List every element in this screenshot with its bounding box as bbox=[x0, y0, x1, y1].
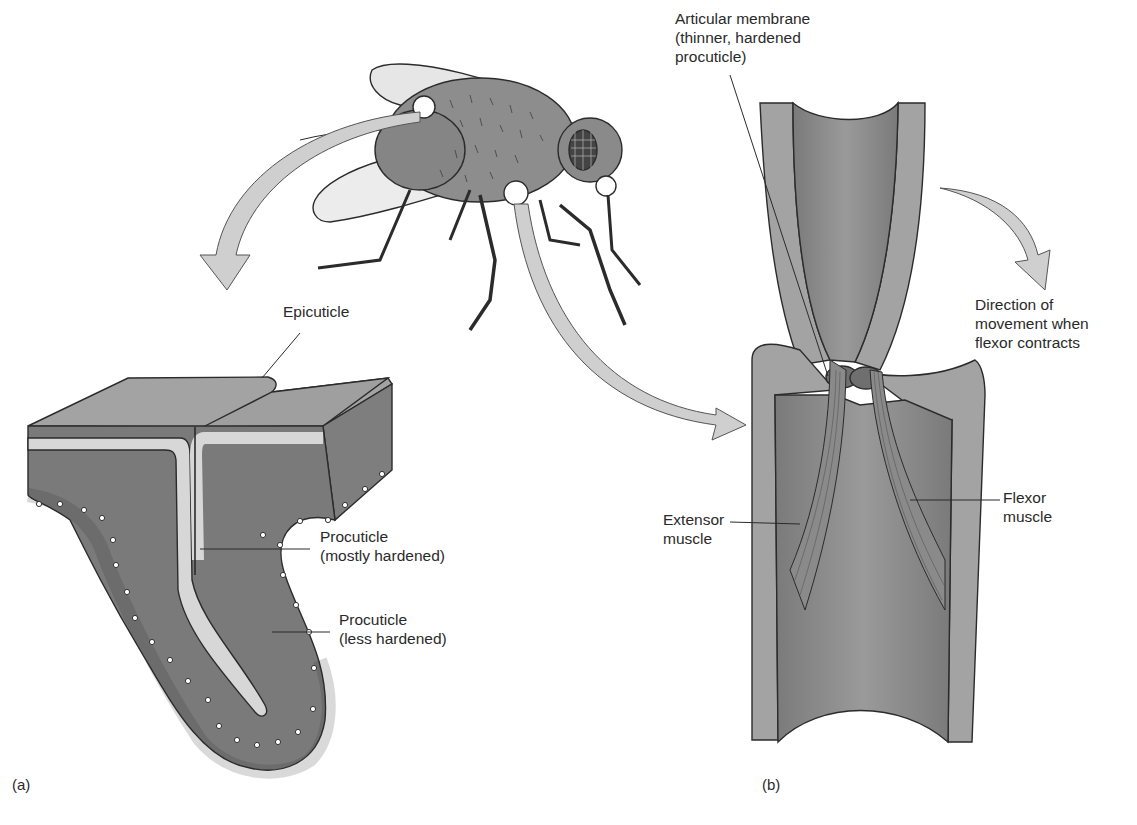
label-epicuticle: Epicuticle bbox=[283, 302, 349, 321]
label-line: Procuticle bbox=[320, 527, 445, 546]
label-flexor-muscle: Flexor muscle bbox=[1003, 488, 1052, 526]
diagram-illustration bbox=[0, 0, 1137, 825]
label-line: procuticle) bbox=[675, 47, 810, 66]
label-procuticle-less-hardened: Procuticle (less hardened) bbox=[339, 610, 447, 648]
label-line: Articular membrane bbox=[675, 9, 810, 28]
label-procuticle-mostly-hardened: Procuticle (mostly hardened) bbox=[320, 527, 445, 565]
label-epicuticle-text: Epicuticle bbox=[283, 302, 349, 321]
panel-label-b: (b) bbox=[762, 776, 780, 793]
label-extensor-muscle: Extensor muscle bbox=[663, 510, 724, 548]
label-articular-membrane: Articular membrane (thinner, hardened pr… bbox=[675, 9, 810, 66]
label-line: Flexor bbox=[1003, 488, 1052, 507]
label-line: muscle bbox=[1003, 507, 1052, 526]
label-line: Extensor bbox=[663, 510, 724, 529]
leg-joint-section bbox=[730, 75, 1000, 742]
panel-label-a: (a) bbox=[12, 776, 30, 793]
arrow-direction-of-movement bbox=[940, 188, 1050, 290]
label-line: movement when bbox=[975, 314, 1089, 333]
label-line: flexor contracts bbox=[975, 333, 1089, 352]
label-line: (mostly hardened) bbox=[320, 546, 445, 565]
label-line: muscle bbox=[663, 529, 724, 548]
label-line: Direction of bbox=[975, 295, 1089, 314]
fly-illustration bbox=[300, 64, 640, 330]
label-line: Procuticle bbox=[339, 610, 447, 629]
label-line: (thinner, hardened bbox=[675, 28, 810, 47]
label-direction-of-movement: Direction of movement when flexor contra… bbox=[975, 295, 1089, 352]
label-line: (less hardened) bbox=[339, 629, 447, 648]
